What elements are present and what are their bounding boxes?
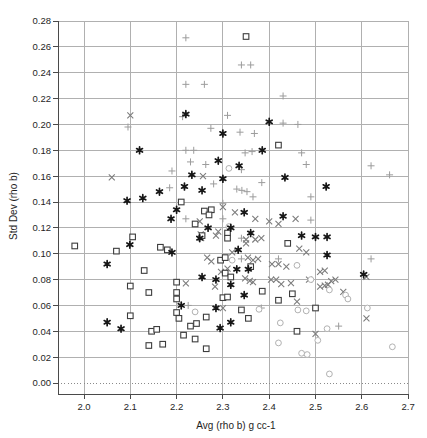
plot-canvas: 2.02.12.22.32.42.52.62.70.000.020.040.06… [0, 0, 427, 438]
svg-text:0.10: 0.10 [33, 248, 52, 259]
svg-text:0.12: 0.12 [33, 222, 52, 233]
svg-text:2.1: 2.1 [124, 401, 137, 412]
svg-text:2.2: 2.2 [170, 401, 183, 412]
svg-text:2.5: 2.5 [309, 401, 322, 412]
svg-text:0.06: 0.06 [33, 300, 52, 311]
svg-text:0.00: 0.00 [33, 377, 52, 388]
y-axis-title: Std Dev (rho b) [8, 172, 19, 240]
svg-text:2.3: 2.3 [216, 401, 229, 412]
svg-text:0.24: 0.24 [33, 67, 52, 78]
x-axis-title: Avg (rho b) g cc-1 [196, 420, 275, 431]
svg-text:0.28: 0.28 [33, 15, 52, 26]
svg-text:2.7: 2.7 [401, 401, 414, 412]
svg-text:0.08: 0.08 [33, 274, 52, 285]
svg-text:2.6: 2.6 [355, 401, 368, 412]
svg-text:0.18: 0.18 [33, 145, 52, 156]
svg-text:0.04: 0.04 [33, 326, 52, 337]
svg-text:0.26: 0.26 [33, 41, 52, 52]
svg-text:0.02: 0.02 [33, 352, 52, 363]
svg-text:0.22: 0.22 [33, 93, 52, 104]
svg-text:0.14: 0.14 [33, 196, 52, 207]
scatter-chart: 2.02.12.22.32.42.52.62.70.000.020.040.06… [0, 0, 427, 438]
svg-text:2.4: 2.4 [263, 401, 276, 412]
svg-text:0.16: 0.16 [33, 171, 52, 182]
svg-text:0.20: 0.20 [33, 119, 52, 130]
svg-text:2.0: 2.0 [77, 401, 90, 412]
